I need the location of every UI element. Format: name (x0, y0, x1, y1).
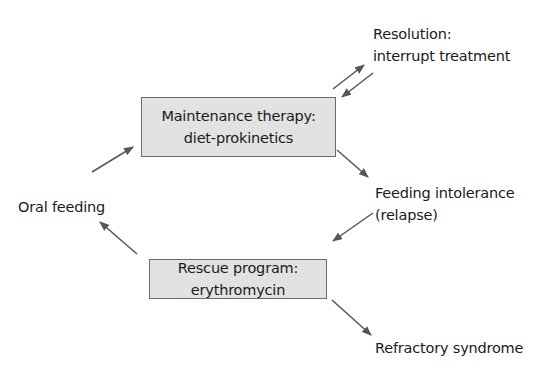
intolerance-line2: (relapse) (375, 204, 514, 226)
maintenance-line1: Maintenance therapy: (161, 105, 315, 127)
refractory-syndrome-label: Refractory syndrome (375, 337, 523, 359)
rescue-program-box: Rescue program: erythromycin (149, 259, 327, 299)
oral-feeding-label: Oral feeding (18, 196, 105, 218)
feeding-intolerance-label: Feeding intolerance (relapse) (375, 182, 514, 226)
arrow-oral-to-maintenance (92, 147, 133, 172)
rescue-line2: erythromycin (191, 279, 285, 301)
arrow-rescue-to-refractory (332, 300, 371, 335)
resolution-line1: Resolution: (373, 23, 510, 45)
intolerance-line1: Feeding intolerance (375, 182, 514, 204)
arrow-intolerance-to-rescue (333, 213, 373, 241)
arrow-resolution-to-maintenance (342, 73, 373, 97)
arrow-maintenance-to-intolerance (337, 150, 368, 177)
maintenance-therapy-box: Maintenance therapy: diet-prokinetics (141, 97, 336, 157)
arrow-rescue-to-oral (100, 222, 137, 254)
rescue-line1: Rescue program: (178, 257, 298, 279)
maintenance-line2: diet-prokinetics (184, 127, 293, 149)
arrow-maintenance-to-resolution (333, 65, 364, 89)
resolution-label: Resolution: interrupt treatment (373, 23, 510, 67)
resolution-line2: interrupt treatment (373, 45, 510, 67)
